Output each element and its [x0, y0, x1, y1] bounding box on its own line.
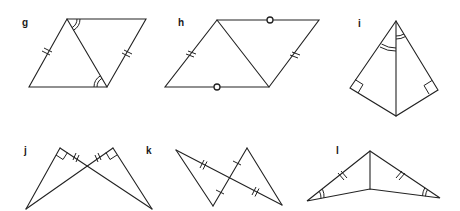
figure-i-label: i: [358, 19, 361, 29]
figure-g-label: g: [22, 18, 28, 28]
figure-l-label: l: [336, 146, 339, 156]
figure-i-left-apex-arcs: [380, 44, 396, 51]
diagram-canvas: [0, 0, 460, 211]
figure-j-right-right-angle: [106, 153, 117, 160]
figure-h: [165, 17, 319, 90]
congruent-triangles-figure-set: g h i j k l: [0, 0, 460, 211]
figure-j: [26, 148, 152, 209]
figure-j-left-leg: [26, 148, 60, 209]
figure-k-short-diagonal: [213, 148, 247, 206]
figure-l-right-tick-marks: [396, 171, 405, 180]
figure-k-label: k: [146, 146, 152, 156]
figure-i-left-right-angle: [355, 80, 363, 94]
figure-g-right-tick-marks: [122, 50, 132, 57]
figure-h-bottom-circle-mark: [214, 84, 220, 90]
figure-h-top-circle-mark: [267, 17, 273, 23]
figure-g-top-angle-arcs: [72, 19, 80, 30]
figure-i-right-right-angle: [424, 81, 432, 95]
figure-j-left-right-angle: [56, 153, 68, 160]
figure-g-diagonal: [67, 19, 107, 87]
figure-l-outline: [307, 151, 440, 201]
figure-j-right-leg: [113, 148, 152, 209]
figure-g: [29, 19, 146, 87]
figure-k-long-diagonal: [176, 150, 282, 205]
figure-i-kite: [350, 21, 438, 116]
figure-j-label: j: [24, 146, 27, 156]
figure-h-diagonal: [217, 20, 269, 87]
figure-g-bottom-angle-arcs: [94, 76, 102, 87]
figure-k-left-side: [176, 150, 213, 206]
figure-l: [307, 151, 440, 201]
figure-k: [176, 148, 282, 206]
figure-h-label: h: [178, 18, 184, 28]
figure-i: [350, 21, 438, 116]
